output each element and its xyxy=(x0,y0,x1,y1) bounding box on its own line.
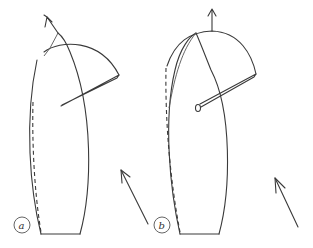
diagram-a: a xyxy=(14,15,148,234)
dashed-line-b xyxy=(166,68,180,232)
hull-b-right-side xyxy=(196,33,228,234)
boom-a xyxy=(61,75,119,106)
hull-b-left-side xyxy=(169,33,196,234)
hull-a-right-side xyxy=(58,33,89,234)
label-b: b xyxy=(159,220,165,231)
sail-diagram-canvas: a b xyxy=(0,0,313,248)
wind-arrowhead-b xyxy=(275,178,285,193)
hull-a-left-side xyxy=(30,60,41,234)
label-a: a xyxy=(19,220,25,231)
wind-arrow-b xyxy=(275,178,298,227)
wind-arrow-a xyxy=(121,170,148,224)
diagram-b: b xyxy=(154,9,298,234)
sail-arc-a xyxy=(44,44,119,75)
boom-b xyxy=(200,74,256,107)
sail-leech-b xyxy=(169,33,196,108)
boom-loop-b xyxy=(196,105,201,112)
sail-leech-a xyxy=(44,33,58,56)
mast-arrowhead-a xyxy=(44,15,52,27)
